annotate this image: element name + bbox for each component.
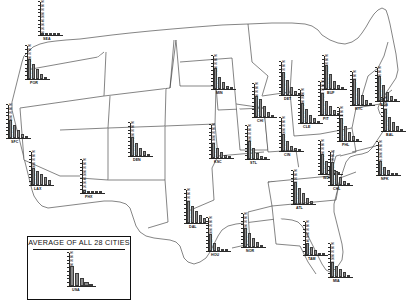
bar	[91, 191, 94, 193]
bar-group	[9, 120, 28, 138]
y-tick	[245, 151, 247, 152]
y-tick-label: 90	[71, 251, 74, 254]
bar	[36, 171, 39, 185]
y-tick	[80, 159, 82, 160]
y-tick	[291, 181, 293, 182]
y-tick	[322, 85, 324, 86]
bar	[301, 103, 304, 123]
bar	[48, 180, 51, 185]
y-tick-label: 90	[385, 96, 388, 99]
city-chart-phl: 0102030405060708090PHL	[339, 108, 362, 142]
y-tick	[375, 75, 377, 76]
bar	[32, 168, 35, 185]
y-tick-label: 90	[332, 242, 335, 245]
bar	[329, 106, 332, 115]
y-tick	[318, 85, 320, 86]
y-tick	[322, 63, 324, 64]
y-tick-label: 20	[42, 27, 45, 30]
plot-area: 0102030405060708090	[378, 142, 401, 176]
bar	[356, 139, 359, 141]
city-code-label: HOU	[211, 253, 219, 257]
bar-group	[353, 79, 372, 105]
y-tick	[375, 93, 377, 94]
bar-group	[331, 162, 350, 185]
y-tick	[381, 120, 383, 121]
y-tick	[328, 162, 330, 163]
bar	[209, 234, 212, 251]
bar	[217, 247, 220, 251]
y-tick-label: 80	[33, 154, 36, 157]
bar-group	[294, 182, 313, 204]
y-tick	[376, 164, 378, 165]
y-tick	[6, 112, 8, 113]
y-tick	[80, 167, 82, 168]
y-tick	[376, 145, 378, 146]
y-tick	[252, 102, 254, 103]
city-code-label: MIN	[216, 91, 223, 95]
bar-group	[209, 234, 228, 251]
city-code-label: TAM	[308, 257, 316, 261]
y-tick-label: 80	[245, 216, 248, 219]
bar	[131, 137, 134, 156]
legend-chart-usa: 0102030405060708090USA	[69, 253, 96, 287]
bar	[256, 153, 259, 159]
y-tick-label: 70	[10, 111, 13, 114]
city-code-label: USA	[72, 288, 80, 292]
y-tick-label: 80	[84, 162, 87, 165]
bar	[80, 278, 84, 286]
y-tick	[279, 125, 281, 126]
y-tick-label: 90	[379, 66, 382, 69]
y-tick	[376, 149, 378, 150]
y-tick	[209, 150, 211, 151]
y-tick	[245, 136, 247, 137]
plot-area: 0102030405060708090	[31, 152, 54, 186]
plot-area: 0102030405060708090	[293, 171, 316, 205]
y-tick	[209, 143, 211, 144]
bar	[199, 215, 202, 223]
bar-group	[282, 134, 301, 151]
y-tick-label: 70	[341, 114, 344, 117]
y-tick-label: 90	[215, 54, 218, 57]
plot-area: 0102030405060708090	[208, 218, 231, 252]
city-chart-stl: 0102030405060708090STL	[247, 126, 270, 160]
y-tick	[318, 92, 320, 93]
city-code-label: PHL	[342, 143, 349, 147]
y-tick	[322, 74, 324, 75]
bar	[302, 193, 305, 204]
bar	[305, 109, 308, 123]
bar	[321, 93, 324, 115]
y-tick-label: 80	[71, 255, 74, 258]
city-chart-nor: 0102030405060708090NOR	[243, 214, 266, 248]
y-tick-label: 60	[307, 232, 310, 235]
y-tick	[322, 55, 324, 56]
y-tick	[279, 76, 281, 77]
bar	[317, 121, 320, 123]
y-tick	[6, 130, 8, 131]
bar	[337, 85, 340, 89]
y-tick	[322, 81, 324, 82]
y-tick	[328, 273, 330, 274]
y-tick-label: 90	[10, 103, 13, 106]
bar-group	[379, 161, 398, 175]
y-tick	[209, 128, 211, 129]
bar	[139, 148, 142, 156]
bar-group	[306, 243, 325, 255]
bar	[21, 134, 24, 138]
y-tick	[381, 105, 383, 106]
bar	[230, 87, 233, 89]
y-tick	[25, 49, 27, 50]
bar-group	[255, 96, 274, 117]
y-tick	[6, 115, 8, 116]
y-tick	[318, 111, 320, 112]
city-chart-sea: 0102030405060708090SEA	[40, 2, 63, 36]
y-tick-label: 60	[84, 170, 87, 173]
y-tick-label: 70	[302, 96, 305, 99]
y-tick-label: 80	[302, 92, 305, 95]
y-tick-label: 70	[322, 147, 325, 150]
city-code-label: ATL	[296, 206, 303, 210]
y-tick	[337, 111, 339, 112]
y-tick	[67, 275, 69, 276]
bar	[400, 129, 403, 131]
y-tick	[328, 254, 330, 255]
y-tick	[298, 104, 300, 105]
